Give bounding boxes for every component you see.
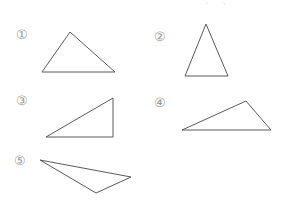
triangle-1: [42, 32, 115, 72]
triangle-label-4: ④: [154, 96, 166, 109]
triangle-label-5: ⑤: [14, 154, 26, 167]
triangle-5: [40, 160, 131, 193]
triangle-label-3: ③: [16, 94, 28, 107]
figure-page: ( ... ) ① ② ③ ④ ⑤: [0, 0, 290, 200]
triangle-3: [46, 98, 113, 137]
triangle-2: [185, 24, 228, 76]
triangle-label-1: ①: [16, 28, 28, 41]
triangle-label-2: ②: [154, 30, 166, 43]
triangles-diagram: [0, 0, 290, 200]
triangle-4: [182, 101, 271, 130]
